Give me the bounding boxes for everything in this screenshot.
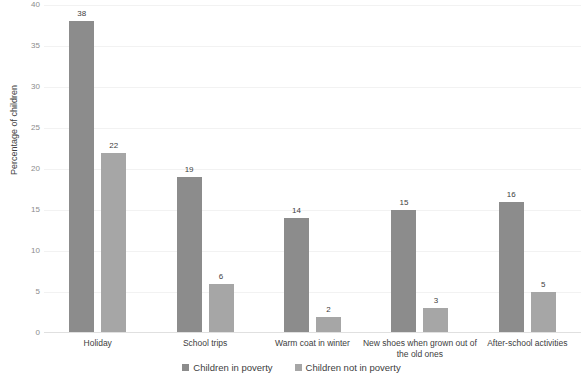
bar-value-label: 6: [199, 272, 244, 281]
x-axis-line: [44, 332, 581, 333]
bar[interactable]: [499, 202, 524, 333]
bar-value-label: 38: [59, 9, 104, 18]
bar-value-label: 16: [489, 190, 534, 199]
legend-item[interactable]: Children not in poverty: [295, 362, 401, 373]
bar[interactable]: [391, 210, 416, 333]
legend-item[interactable]: Children in poverty: [182, 362, 272, 373]
bar-value-label: 22: [91, 141, 136, 150]
y-tick-label: 10: [14, 247, 40, 255]
bar[interactable]: [177, 177, 202, 333]
legend-label: Children not in poverty: [306, 362, 401, 373]
gridline: [44, 5, 581, 6]
gridline: [44, 128, 581, 129]
gridline: [44, 46, 581, 47]
gridline: [44, 87, 581, 88]
chart-legend: Children in povertyChildren not in pover…: [0, 362, 583, 373]
x-axis-category-label: New shoes when grown out of the old ones: [361, 338, 479, 360]
y-tick-label: 20: [14, 165, 40, 173]
x-axis-category-label: School trips: [146, 338, 264, 349]
bar-value-label: 19: [167, 165, 212, 174]
bar[interactable]: [531, 292, 556, 333]
y-tick-label: 25: [14, 124, 40, 132]
bar-value-label: 5: [521, 280, 566, 289]
bar[interactable]: [284, 218, 309, 333]
bar[interactable]: [69, 21, 94, 333]
y-axis-tick-labels: 0510152025303540: [0, 0, 40, 381]
bar-value-label: 2: [306, 305, 351, 314]
bar-value-label: 15: [381, 198, 426, 207]
legend-swatch-icon: [182, 364, 189, 371]
y-tick-label: 40: [14, 1, 40, 9]
bar[interactable]: [423, 308, 448, 333]
bar[interactable]: [316, 317, 341, 333]
plot-area: 3822196142153165: [44, 5, 581, 333]
bar[interactable]: [209, 284, 234, 333]
x-axis-category-label: Warm coat in winter: [254, 338, 372, 349]
y-tick-label: 35: [14, 42, 40, 50]
legend-label: Children in poverty: [193, 362, 272, 373]
y-tick-label: 0: [14, 329, 40, 337]
legend-swatch-icon: [295, 364, 302, 371]
y-tick-label: 15: [14, 206, 40, 214]
bar[interactable]: [101, 153, 126, 333]
x-axis-category-label: After-school activities: [468, 338, 583, 349]
bar-chart: Percentage of children 0510152025303540 …: [0, 0, 583, 381]
bar-value-label: 14: [274, 206, 319, 215]
x-axis-category-label: Holiday: [39, 338, 157, 349]
bar-value-label: 3: [413, 296, 458, 305]
y-tick-label: 5: [14, 288, 40, 296]
y-tick-label: 30: [14, 83, 40, 91]
